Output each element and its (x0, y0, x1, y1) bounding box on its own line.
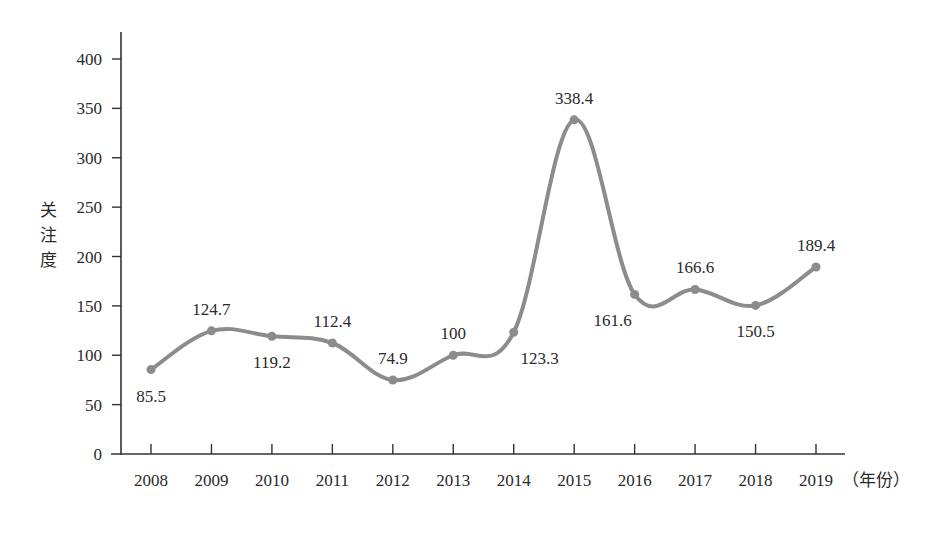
y-tick-label: 50 (85, 396, 102, 415)
x-tick-label: 2015 (557, 471, 591, 490)
y-tick-label: 100 (77, 346, 103, 365)
data-label: 74.9 (378, 349, 408, 368)
y-tick-label: 200 (77, 248, 103, 267)
y-tick-label: 250 (77, 198, 103, 217)
y-label-char: 关 (40, 200, 57, 220)
x-tick-label: 2014 (497, 471, 532, 490)
data-point (328, 339, 337, 348)
x-tick-label: 2011 (316, 471, 349, 490)
data-point (207, 326, 216, 335)
data-point (147, 365, 156, 374)
data-label: 100 (441, 324, 467, 343)
data-label: 161.6 (594, 311, 632, 330)
y-label-char: 度 (40, 250, 57, 270)
data-label: 123.3 (521, 349, 559, 368)
series-line (151, 120, 816, 381)
x-tick-label: 2010 (255, 471, 289, 490)
x-tick-label: 2012 (376, 471, 410, 490)
data-point (691, 285, 700, 294)
y-tick-label: 300 (77, 149, 103, 168)
data-label: 189.4 (797, 236, 836, 255)
data-point (630, 290, 639, 299)
data-point (751, 301, 760, 310)
data-point (388, 376, 397, 385)
y-axis-ticks: 050100150200250300350400 (77, 50, 122, 464)
data-point (449, 351, 458, 360)
data-point (570, 115, 579, 124)
x-axis-label: （年份） (842, 471, 910, 490)
x-tick-label: 2019 (799, 471, 833, 490)
line-chart: 050100150200250300350400 200820092010201… (0, 0, 936, 533)
data-point (509, 328, 518, 337)
y-tick-label: 0 (94, 445, 103, 464)
x-tick-label: 2016 (618, 471, 652, 490)
x-tick-label: 2009 (194, 471, 228, 490)
y-tick-label: 150 (77, 297, 103, 316)
data-label: 166.6 (676, 258, 714, 277)
data-label: 150.5 (736, 322, 774, 341)
x-tick-label: 2013 (436, 471, 470, 490)
data-point (812, 262, 821, 271)
y-tick-label: 400 (77, 50, 103, 69)
data-label: 112.4 (314, 312, 352, 331)
y-axis-label: 关注度 (40, 200, 57, 270)
axes (111, 32, 845, 455)
data-label: 85.5 (136, 387, 166, 406)
y-label-char: 注 (40, 225, 57, 245)
data-label: 124.7 (192, 300, 231, 319)
data-label: 338.4 (555, 89, 594, 108)
data-point (267, 332, 276, 341)
x-tick-label: 2008 (134, 471, 168, 490)
x-tick-label: 2018 (739, 471, 773, 490)
data-points (147, 115, 821, 384)
y-tick-label: 350 (77, 99, 103, 118)
x-axis-ticks: 2008200920102011201220132014201520162017… (134, 444, 833, 490)
data-label: 119.2 (253, 353, 291, 372)
x-tick-label: 2017 (678, 471, 713, 490)
